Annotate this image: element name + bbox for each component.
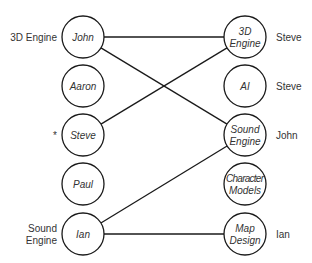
right-side-label: Ian <box>276 229 290 240</box>
node-label: Aaron <box>69 81 97 92</box>
node-3d-engine: 3DEngine <box>224 16 266 58</box>
node-ai: AI <box>224 65 266 107</box>
node-label: Paul <box>73 179 94 190</box>
node-paul: Paul <box>62 163 104 205</box>
node-steve: Steve <box>62 114 104 156</box>
node-ian: Ian <box>62 213 104 255</box>
node-map-design: MapDesign <box>224 213 266 255</box>
node-character-models: CharacterModels <box>224 163 266 205</box>
left-side-label: Engine <box>26 235 58 246</box>
node-label: Steve <box>70 130 96 141</box>
node-label: Engine <box>229 38 261 49</box>
right-side-label: Steve <box>276 32 302 43</box>
node-label: John <box>71 32 94 43</box>
edge-ian-to-sound-engine <box>101 146 227 223</box>
right-side-label: John <box>276 130 298 141</box>
edges-layer <box>101 37 227 234</box>
right-side-label: Steve <box>276 81 302 92</box>
node-label: Design <box>229 235 261 246</box>
nodes-layer: JohnAaronStevePaulIan3DEngineAISoundEngi… <box>62 16 266 255</box>
node-label: 3D <box>239 26 252 37</box>
node-label: Engine <box>229 136 261 147</box>
node-sound-engine: SoundEngine <box>224 114 266 156</box>
node-aaron: Aaron <box>62 65 104 107</box>
node-john: John <box>62 16 104 58</box>
node-label: Models <box>229 185 261 196</box>
node-label: Sound <box>231 124 260 135</box>
node-label: AI <box>239 81 250 92</box>
node-label: Map <box>235 223 255 234</box>
node-label: Character <box>226 173 265 184</box>
left-side-label: Sound <box>28 223 57 234</box>
asterisk-marker: * <box>53 130 57 141</box>
node-label: Ian <box>76 229 90 240</box>
bipartite-diagram: JohnAaronStevePaulIan3DEngineAISoundEngi… <box>0 0 312 263</box>
left-side-label: 3D Engine <box>10 32 57 43</box>
